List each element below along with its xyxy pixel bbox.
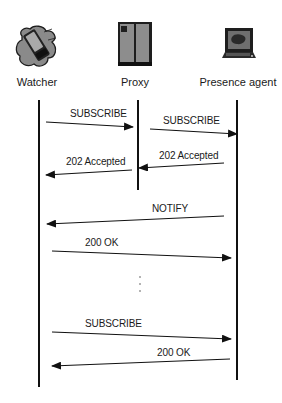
message-arrow-6 — [52, 251, 231, 258]
message-label-3: 202 Accepted — [159, 150, 218, 161]
message-arrow-8 — [52, 359, 230, 366]
message-label-1: SUBSCRIBE — [70, 108, 127, 119]
message-label-8: 200 OK — [157, 347, 190, 358]
message-label-7: SUBSCRIBE — [85, 318, 142, 329]
message-arrow-4 — [46, 170, 132, 175]
message-arrow-7 — [52, 332, 231, 339]
message-label-5: NOTIFY — [152, 203, 188, 214]
message-label-6: 200 OK — [85, 237, 118, 248]
message-label-2: SUBSCRIBE — [163, 115, 220, 126]
message-arrow-1 — [46, 122, 133, 127]
message-arrow-2 — [150, 129, 237, 134]
diagram-lines — [0, 0, 282, 403]
sequence-diagram: Watcher Proxy Presence agent — [0, 0, 282, 403]
message-arrow-5 — [47, 216, 224, 224]
message-label-4: 202 Accepted — [66, 156, 125, 167]
message-arrow-3 — [139, 163, 224, 168]
ellipsis-dots — [139, 276, 141, 292]
